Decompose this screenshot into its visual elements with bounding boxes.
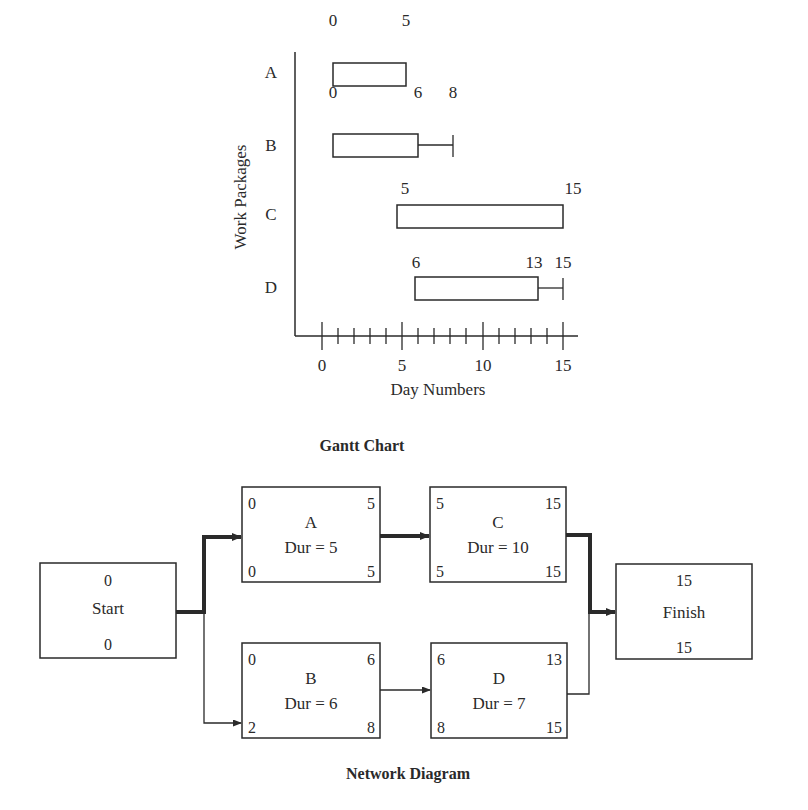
figure: 0 5 10 15 Day Numbers Work Packages A B … bbox=[0, 0, 808, 810]
arrow-d-to-finish bbox=[567, 612, 589, 694]
gantt-bar-b bbox=[333, 134, 418, 157]
node-c-label: C bbox=[492, 513, 503, 532]
node-b: 0 6 B Dur = 6 2 8 bbox=[242, 643, 380, 738]
finish-label: Finish bbox=[663, 603, 706, 622]
gantt-caption: Gantt Chart bbox=[320, 437, 406, 454]
bar-b-end-label: 6 bbox=[414, 83, 423, 102]
row-label-b: B bbox=[265, 136, 276, 155]
bar-b-start-label: 0 bbox=[329, 83, 338, 102]
gantt-bar-c bbox=[397, 205, 563, 228]
node-b-es: 0 bbox=[248, 651, 256, 668]
bar-d-late-label: 15 bbox=[555, 253, 572, 272]
node-d: 6 13 D Dur = 7 8 15 bbox=[431, 643, 567, 738]
bar-d-end-label: 13 bbox=[526, 253, 543, 272]
start-label: Start bbox=[92, 599, 124, 618]
gantt-chart: 0 5 10 15 Day Numbers Work Packages A B … bbox=[231, 11, 582, 454]
network-caption: Network Diagram bbox=[346, 765, 471, 783]
row-label-c: C bbox=[265, 205, 276, 224]
node-d-duration: Dur = 7 bbox=[472, 694, 526, 713]
node-a-ef: 5 bbox=[367, 495, 375, 512]
x-tick-label: 5 bbox=[398, 356, 407, 375]
node-d-lf: 15 bbox=[546, 719, 562, 736]
node-d-ls: 8 bbox=[437, 719, 445, 736]
node-b-ef: 6 bbox=[367, 651, 375, 668]
critical-arrow-start-to-a bbox=[176, 537, 241, 612]
node-a-es: 0 bbox=[248, 495, 256, 512]
start-top-value: 0 bbox=[104, 572, 112, 589]
node-a-lf: 5 bbox=[367, 563, 375, 580]
node-c: 5 15 C Dur = 10 5 15 bbox=[430, 487, 566, 582]
x-axis-label: Day Numbers bbox=[391, 380, 486, 399]
node-d-es: 6 bbox=[437, 651, 445, 668]
x-tick-label: 0 bbox=[318, 356, 327, 375]
node-b-label: B bbox=[305, 669, 316, 688]
node-c-duration: Dur = 10 bbox=[467, 538, 529, 557]
node-c-ef: 15 bbox=[545, 495, 561, 512]
node-finish: 15 Finish 15 bbox=[616, 564, 752, 659]
bar-d-start-label: 6 bbox=[412, 253, 421, 272]
network-diagram: 0 Start 0 0 5 A Dur = 5 0 5 0 6 B Dur = … bbox=[40, 487, 752, 783]
arrow-start-to-b bbox=[204, 612, 241, 723]
node-d-label: D bbox=[493, 669, 505, 688]
start-bottom-value: 0 bbox=[104, 636, 112, 653]
node-d-ef: 13 bbox=[546, 651, 562, 668]
x-tick-label: 15 bbox=[555, 356, 572, 375]
node-c-ls: 5 bbox=[436, 563, 444, 580]
gantt-bar-a bbox=[333, 63, 406, 86]
finish-bottom-value: 15 bbox=[676, 639, 692, 656]
finish-top-value: 15 bbox=[676, 572, 692, 589]
gantt-bar-d bbox=[415, 277, 538, 300]
bar-c-end-label: 15 bbox=[565, 179, 582, 198]
bar-c-start-label: 5 bbox=[401, 179, 410, 198]
node-c-es: 5 bbox=[436, 495, 444, 512]
node-a-ls: 0 bbox=[248, 563, 256, 580]
node-b-lf: 8 bbox=[367, 719, 375, 736]
node-a: 0 5 A Dur = 5 0 5 bbox=[242, 487, 380, 582]
node-start: 0 Start 0 bbox=[40, 563, 176, 658]
node-c-lf: 15 bbox=[545, 563, 561, 580]
node-a-label: A bbox=[305, 513, 318, 532]
x-tick-label: 10 bbox=[475, 356, 492, 375]
critical-arrow-c-to-finish bbox=[566, 535, 615, 612]
bar-a-end-label: 5 bbox=[402, 11, 411, 30]
node-b-duration: Dur = 6 bbox=[284, 694, 337, 713]
y-axis-label: Work Packages bbox=[231, 145, 250, 250]
node-a-duration: Dur = 5 bbox=[284, 538, 337, 557]
bar-a-start-label: 0 bbox=[329, 11, 338, 30]
bar-b-late-label: 8 bbox=[449, 83, 458, 102]
row-label-a: A bbox=[265, 63, 278, 82]
row-label-d: D bbox=[265, 278, 277, 297]
node-b-ls: 2 bbox=[248, 719, 256, 736]
